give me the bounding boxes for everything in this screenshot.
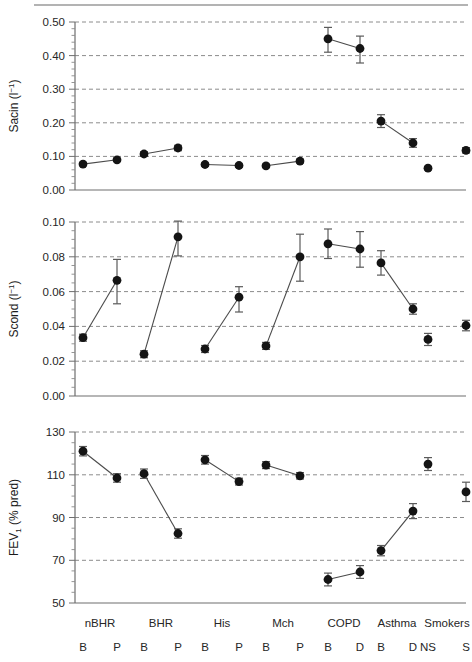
- group-label-smokers: Smokers: [424, 617, 470, 629]
- y-axis-title: FEV1 (% pred): [7, 479, 23, 556]
- marker-point: [235, 477, 244, 486]
- marker-point: [324, 34, 333, 43]
- y-axis-title-main: Scond (l: [7, 294, 21, 338]
- data-point: [296, 157, 305, 166]
- data-point: [409, 139, 418, 148]
- data-point: [296, 471, 305, 480]
- y-tick-label: 50: [52, 597, 65, 609]
- marker-point: [424, 164, 433, 173]
- marker-point: [140, 150, 149, 159]
- marker-point: [113, 276, 122, 285]
- sub-label-bhr-b: B: [140, 641, 148, 653]
- marker-point: [174, 529, 183, 538]
- y-tick-label: 0.02: [43, 355, 65, 367]
- sub-label-copd-d: D: [356, 641, 364, 653]
- marker-point: [262, 161, 271, 170]
- data-point: [424, 164, 433, 173]
- y-tick-label: 0.20: [43, 117, 65, 129]
- data-point: [201, 455, 210, 464]
- sub-label-mch-b: B: [262, 641, 270, 653]
- marker-point: [424, 460, 433, 469]
- group-label-mch: Mch: [272, 617, 294, 629]
- marker-point: [424, 335, 433, 344]
- marker-point: [79, 160, 88, 169]
- marker-point: [79, 333, 88, 342]
- y-tick-label: 0.40: [43, 50, 65, 62]
- figure-root: 0.000.100.200.300.400.50Sacin (l−1)0.000…: [0, 0, 472, 662]
- data-point: [262, 161, 271, 170]
- marker-point: [296, 471, 305, 480]
- y-axis-title-tail: ): [7, 79, 21, 83]
- marker-point: [201, 345, 210, 354]
- marker-point: [377, 546, 386, 555]
- marker-point: [262, 461, 271, 470]
- marker-point: [324, 239, 333, 248]
- marker-point: [462, 146, 471, 155]
- data-point: [201, 160, 210, 169]
- y-tick-label: 0.06: [43, 286, 65, 298]
- marker-point: [174, 144, 183, 153]
- data-point: [113, 155, 122, 164]
- y-tick-label: 0.08: [43, 251, 65, 263]
- marker-point: [462, 321, 471, 330]
- marker-point: [201, 455, 210, 464]
- group-label-bhr: BHR: [149, 617, 173, 629]
- sub-label-smokers-s: S: [462, 641, 470, 653]
- sub-label-nbhr-p: P: [113, 641, 121, 653]
- data-point: [140, 150, 149, 159]
- sub-label-his-b: B: [201, 641, 209, 653]
- marker-point: [113, 155, 122, 164]
- group-label-asthma: Asthma: [378, 617, 418, 629]
- marker-point: [377, 117, 386, 126]
- marker-point: [262, 342, 271, 351]
- sub-label-mch-p: P: [296, 641, 304, 653]
- sub-label-his-p: P: [235, 641, 243, 653]
- sub-label-copd-b: B: [324, 641, 332, 653]
- sub-label-nbhr-b: B: [79, 641, 87, 653]
- group-label-nbhr: nBHR: [85, 617, 116, 629]
- y-tick-label: 0.00: [43, 390, 65, 402]
- data-point: [235, 477, 244, 486]
- sub-label-asthma-b: B: [377, 641, 385, 653]
- data-point: [113, 474, 122, 483]
- data-point: [140, 350, 149, 359]
- y-axis-title-main: Sacin (l: [7, 93, 21, 133]
- data-point: [79, 333, 88, 342]
- y-tick-label: 0.10: [43, 216, 65, 228]
- data-point: [79, 160, 88, 169]
- marker-point: [235, 293, 244, 302]
- y-tick-label: 0.04: [43, 320, 66, 332]
- marker-point: [356, 245, 365, 254]
- data-point: [462, 146, 471, 155]
- data-point: [262, 342, 271, 351]
- marker-point: [409, 507, 418, 516]
- data-point: [262, 461, 271, 470]
- sub-label-bhr-p: P: [174, 641, 182, 653]
- y-tick-label: 130: [46, 426, 65, 438]
- y-tick-label: 0.50: [43, 16, 65, 28]
- marker-point: [174, 232, 183, 241]
- y-tick-label: 90: [52, 512, 65, 524]
- marker-point: [356, 44, 365, 53]
- marker-point: [296, 157, 305, 166]
- marker-point: [140, 469, 149, 478]
- y-tick-label: 0.10: [43, 150, 65, 162]
- data-point: [235, 161, 244, 170]
- y-axis-title-main: FEV: [7, 533, 21, 556]
- marker-point: [324, 575, 333, 584]
- marker-point: [462, 488, 471, 497]
- marker-point: [409, 305, 418, 314]
- figure-background: [0, 0, 472, 662]
- group-label-his: His: [214, 617, 231, 629]
- marker-point: [235, 161, 244, 170]
- y-axis-title-tail: (% pred): [7, 479, 21, 528]
- marker-point: [79, 447, 88, 456]
- marker-point: [113, 474, 122, 483]
- y-tick-label: 0.30: [43, 83, 65, 95]
- data-point: [201, 345, 210, 354]
- marker-point: [409, 139, 418, 148]
- marker-point: [296, 252, 305, 261]
- sub-label-asthma-d: D: [409, 641, 417, 653]
- y-axis-title-tail: ): [7, 280, 21, 284]
- group-label-copd: COPD: [327, 617, 360, 629]
